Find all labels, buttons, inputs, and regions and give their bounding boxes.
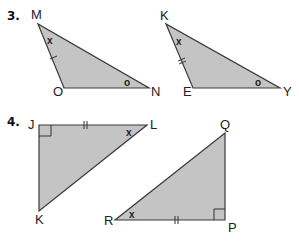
vertex-label-y: Y (283, 84, 292, 99)
vertex-label-o: O (53, 84, 63, 99)
vertex-label-n: N (151, 84, 160, 99)
triangle-mon-shape (38, 24, 149, 88)
vertex-label-m: M (31, 7, 42, 22)
angle-mark-o-n: o (124, 77, 130, 88)
vertex-label-q: Q (220, 117, 230, 132)
angle-mark-x-r: x (129, 209, 135, 220)
problem-number-4: 4. (7, 115, 20, 129)
vertex-label-l: L (150, 117, 157, 132)
triangle-rpq-shape (115, 133, 225, 220)
triangle-key-shape (166, 24, 280, 88)
vertex-label-j: J (28, 117, 35, 132)
triangle-mon: x o M O N (31, 7, 160, 99)
angle-mark-x-k: x (176, 36, 182, 47)
problem-number-3: 3. (7, 9, 20, 23)
vertex-label-r: R (104, 213, 113, 228)
angle-mark-x-m: x (47, 35, 53, 46)
triangle-key: x o K E Y (160, 8, 292, 99)
vertex-label-p: P (228, 220, 237, 235)
vertex-label-k4: K (35, 212, 44, 227)
geometry-diagram: 3. x o M O N x o K E Y 4. (0, 0, 299, 241)
vertex-label-k: K (160, 8, 169, 23)
vertex-label-e: E (183, 84, 192, 99)
problem-4: 4. x J L K x Q P R (7, 115, 237, 235)
angle-mark-o-y: o (255, 77, 261, 88)
angle-mark-x-l: x (126, 127, 132, 138)
problem-3: 3. x o M O N x o K E Y (7, 7, 292, 99)
